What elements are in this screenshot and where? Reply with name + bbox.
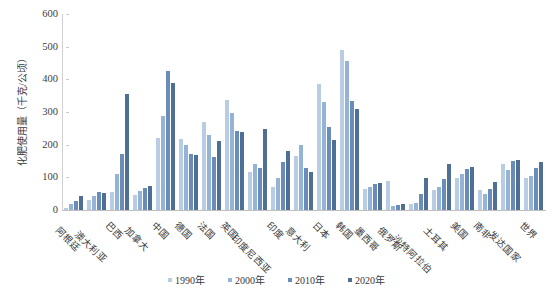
bar (281, 162, 285, 210)
bar-group (453, 14, 476, 210)
bar (125, 94, 129, 210)
legend-item[interactable]: 1990年 (168, 272, 205, 287)
y-tick-label: 300 (12, 107, 58, 117)
bar (501, 164, 505, 210)
bar-group (246, 14, 269, 210)
bar-group (154, 14, 177, 210)
bar (184, 145, 188, 210)
bar-group (338, 14, 361, 210)
x-tick-label: 美国 (449, 220, 470, 241)
bar (225, 100, 229, 210)
bar (230, 113, 234, 210)
y-tick-label: 600 (12, 9, 58, 19)
bar (391, 206, 395, 210)
x-tick-label: 印度尼西亚 (229, 233, 271, 275)
bar (414, 203, 418, 210)
bar (102, 193, 106, 210)
bar (156, 138, 160, 210)
bar (363, 189, 367, 210)
bar (143, 188, 147, 210)
bar (322, 102, 326, 210)
bar (437, 187, 441, 210)
bar (69, 204, 73, 210)
bar (148, 186, 152, 210)
legend-item[interactable]: 2000年 (228, 272, 265, 287)
bar-group (131, 14, 154, 210)
bar (524, 178, 528, 210)
bar (64, 208, 68, 210)
bar (240, 132, 244, 210)
legend-swatch-icon (228, 278, 232, 282)
x-tick-label: 墨西哥 (353, 225, 381, 253)
bar-group (430, 14, 453, 210)
bar-group (177, 14, 200, 210)
bar (74, 201, 78, 210)
bar-group (522, 14, 545, 210)
bar (166, 71, 170, 210)
y-tick-label: 200 (12, 140, 58, 150)
bar (171, 83, 175, 210)
x-tick-label: 德国 (173, 220, 194, 241)
bar-group (108, 14, 131, 210)
bar (447, 164, 451, 210)
bar (332, 140, 336, 210)
x-tick-label: 土耳其 (422, 225, 450, 253)
bar (276, 178, 280, 210)
bar (539, 162, 543, 210)
bar (202, 122, 206, 210)
legend-label: 2010年 (295, 272, 325, 287)
bar-group (384, 14, 407, 210)
x-tick-label: 沙特阿拉伯 (390, 233, 432, 275)
x-axis-category-labels: 阿根廷澳大利亚巴西加拿大中国德国法国英国印度尼西亚印度意大利日本韩国墨西哥俄罗斯… (62, 211, 546, 271)
bar-group (407, 14, 430, 210)
bar (355, 109, 359, 210)
x-tick-label: 加拿大 (123, 225, 151, 253)
y-tick-label: 500 (12, 42, 58, 52)
bar (110, 192, 114, 210)
bar (327, 127, 331, 210)
x-tick-label: 法国 (196, 220, 217, 241)
bar-group (499, 14, 522, 210)
bar (133, 195, 137, 210)
bar (373, 184, 377, 210)
bar (478, 190, 482, 210)
bar-group (62, 14, 85, 210)
bar (207, 135, 211, 210)
x-tick-label: 意大利 (284, 225, 312, 253)
bar (235, 131, 239, 210)
bar (253, 164, 257, 210)
bar-group (223, 14, 246, 210)
bar (161, 116, 165, 210)
bar (442, 179, 446, 210)
legend-item[interactable]: 2020年 (348, 272, 385, 287)
bar (79, 196, 83, 210)
x-tick-label: 发达国家 (487, 229, 522, 264)
bar (516, 160, 520, 210)
bar (455, 178, 459, 210)
bar (271, 187, 275, 210)
bar (309, 172, 313, 210)
bar (179, 139, 183, 210)
bar (350, 101, 354, 210)
bar (493, 182, 497, 210)
bar (483, 194, 487, 210)
legend-swatch-icon (288, 278, 292, 282)
bar (506, 170, 510, 210)
bar-group (315, 14, 338, 210)
bar (378, 183, 382, 210)
bar (511, 161, 515, 210)
bar (345, 61, 349, 210)
legend-label: 2020年 (355, 272, 385, 287)
bar (317, 84, 321, 210)
bar-group (200, 14, 223, 210)
legend-label: 2000年 (235, 272, 265, 287)
bar (419, 194, 423, 210)
bar (87, 200, 91, 210)
x-tick-label: 日本 (311, 220, 332, 241)
bar (217, 141, 221, 210)
bar-group (292, 14, 315, 210)
legend-item[interactable]: 2010年 (288, 272, 325, 287)
bar (409, 204, 413, 210)
fertilizer-use-bar-chart: 化肥使用量（千克/公顷） 6005004003002001000 阿根廷澳大利亚… (0, 0, 553, 296)
bar (465, 169, 469, 210)
